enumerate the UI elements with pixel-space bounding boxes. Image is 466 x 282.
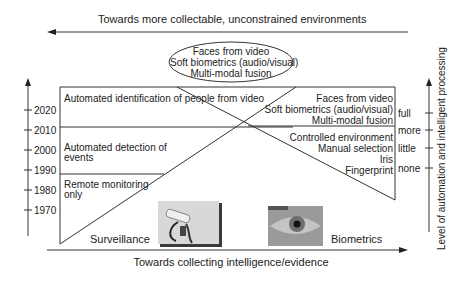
- eye-iris-photo: [268, 206, 323, 246]
- tick-1990: 1990: [34, 165, 56, 176]
- tick-2020: 2020: [34, 105, 56, 116]
- biometrics-current-line-1: Controlled environment: [240, 132, 393, 143]
- left-time-axis: [24, 78, 32, 236]
- biometrics-future-line-3: Multi-modal fusion: [240, 115, 393, 126]
- tick-2000: 2000: [34, 145, 56, 156]
- surveillance-stage-monitoring-line-2: only: [64, 189, 82, 200]
- ellipse-line-2: Soft biometrics (audio/visual): [170, 57, 292, 68]
- bottom-arrow-label: Towards collecting intelligence/evidence: [98, 257, 364, 268]
- biometrics-future-line-2: Soft biometrics (audio/visual): [240, 104, 393, 115]
- biometrics-title: Biometrics: [331, 234, 382, 245]
- biometrics-current-line-2: Manual selection: [240, 143, 393, 154]
- level-full: full: [398, 108, 411, 119]
- tick-1980: 1980: [34, 185, 56, 196]
- level-little: little: [398, 143, 416, 154]
- right-axis-label: Level of automation and intelligent proc…: [436, 47, 447, 250]
- level-more: more: [398, 125, 421, 136]
- surveillance-stage-identification: Automated identification of people from …: [64, 93, 264, 104]
- tick-2010: 2010: [34, 125, 56, 136]
- biometrics-current-line-4: Fingerprint: [240, 165, 393, 176]
- top-arrow: [47, 29, 408, 35]
- ellipse-line-1: Faces from video: [170, 46, 292, 57]
- top-arrow-label: Towards more collectable, unconstrained …: [98, 14, 364, 25]
- surveillance-title: Surveillance: [90, 234, 150, 245]
- bottom-arrow: [47, 247, 408, 253]
- right-automation-axis: [425, 78, 433, 232]
- ellipse-line-3: Multi-modal fusion: [170, 68, 292, 79]
- level-none: none: [398, 163, 420, 174]
- biometrics-future-line-1: Faces from video: [240, 93, 393, 104]
- diagram-canvas: [0, 0, 466, 282]
- biometrics-current-line-3: Iris: [240, 154, 393, 165]
- cctv-camera-photo: [158, 201, 222, 247]
- tick-1970: 1970: [34, 205, 56, 216]
- surveillance-stage-detection-line-2: events: [64, 152, 93, 163]
